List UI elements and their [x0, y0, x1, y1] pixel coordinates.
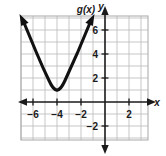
- x-tick-label-neg2: −2: [75, 109, 87, 120]
- x-axis-left-arrow-icon: [18, 98, 27, 105]
- y-axis: [101, 6, 108, 154]
- function-label-gx: g(x): [76, 4, 96, 15]
- y-tick-label-2: 2: [92, 73, 98, 84]
- x-axis: [18, 98, 156, 105]
- y-tick-label-4: 4: [92, 49, 98, 60]
- y-tick-label-neg2: −2: [87, 121, 99, 132]
- y-tick-label-6: 6: [92, 25, 98, 36]
- y-axis-label: y: [97, 1, 104, 12]
- x-tick-label-neg6: −6: [27, 109, 39, 120]
- x-tick-label-2: 2: [126, 109, 132, 120]
- x-axis-label: x: [153, 97, 160, 108]
- x-tick-label-neg4: −4: [51, 109, 63, 120]
- y-axis-bottom-arrow-icon: [101, 145, 108, 154]
- coordinate-plane-svg: −6 −4 −2 2 −2 2 4 6 x y g(x): [0, 0, 166, 156]
- graph-figure: −6 −4 −2 2 −2 2 4 6 x y g(x): [0, 0, 166, 156]
